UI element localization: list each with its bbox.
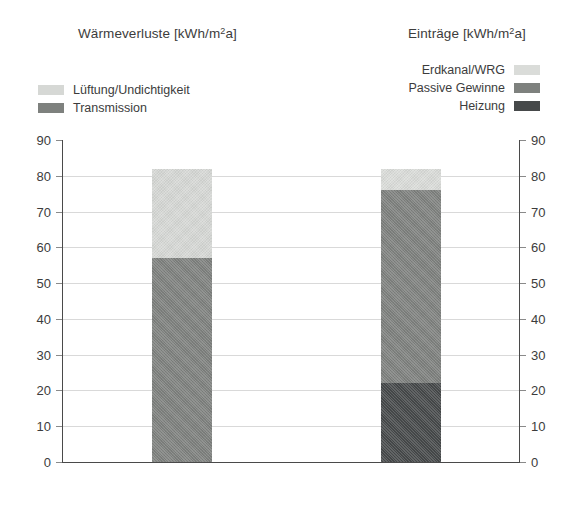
legend-losses: Lüftung/Undichtigkeit Transmission <box>38 82 190 118</box>
panel-title-losses: Wärmeverluste [kWh/m2a] <box>78 26 237 41</box>
y-axis-label-right-10: 10 <box>531 419 565 434</box>
tick-left-70 <box>56 212 62 213</box>
y-axis-label-left-20: 20 <box>17 383 51 398</box>
tick-left-90 <box>56 140 62 141</box>
gridline-50 <box>63 283 519 284</box>
y-axis-label-right-80: 80 <box>531 169 565 184</box>
legend-swatch-erdkanal <box>514 65 540 75</box>
gridline-10 <box>63 426 519 427</box>
legend-item-erdkanal: Erdkanal/WRG <box>408 62 540 78</box>
tick-right-70 <box>520 212 526 213</box>
tick-left-80 <box>56 176 62 177</box>
legend-item-heating: Heizung <box>408 98 540 114</box>
y-axis-label-right-70: 70 <box>531 205 565 220</box>
bar-segment-erdkanal-wrg[interactable] <box>381 169 441 190</box>
y-axis-label-left-50: 50 <box>17 276 51 291</box>
panel-title-gains-text: Einträge [kWh/m <box>408 26 509 41</box>
y-axis-label-left-90: 90 <box>17 133 51 148</box>
bar-segment-heizung[interactable] <box>381 383 441 462</box>
legend-swatch-transmission <box>38 103 64 113</box>
y-axis-label-left-40: 40 <box>17 312 51 327</box>
y-axis-label-right-40: 40 <box>531 312 565 327</box>
legend-item-passive-gains: Passive Gewinne <box>408 80 540 96</box>
tick-right-80 <box>520 176 526 177</box>
bar-waermeverluste[interactable] <box>152 169 212 462</box>
legend-item-transmission: Transmission <box>38 100 190 116</box>
y-axis-label-right-90: 90 <box>531 133 565 148</box>
y-axis-label-right-30: 30 <box>531 348 565 363</box>
y-axis-label-right-50: 50 <box>531 276 565 291</box>
panel-title-losses-text: Wärmeverluste [kWh/m <box>78 26 220 41</box>
tick-left-30 <box>56 355 62 356</box>
gridline-20 <box>63 390 519 391</box>
tick-right-20 <box>520 390 526 391</box>
legend-label-passive-gains: Passive Gewinne <box>408 81 505 95</box>
gridline-60 <box>63 247 519 248</box>
legend-label-erdkanal: Erdkanal/WRG <box>422 63 505 77</box>
gridline-70 <box>63 212 519 213</box>
legend-gains: Erdkanal/WRG Passive Gewinne Heizung <box>408 62 540 116</box>
panel-title-gains: Einträge [kWh/m2a] <box>408 26 526 41</box>
tick-left-10 <box>56 426 62 427</box>
y-axis-label-right-60: 60 <box>531 240 565 255</box>
gridline-30 <box>63 355 519 356</box>
y-axis-label-left-10: 10 <box>17 419 51 434</box>
legend-swatch-heating <box>514 101 540 111</box>
gridline-80 <box>63 176 519 177</box>
tick-left-40 <box>56 319 62 320</box>
tick-left-0 <box>56 462 62 463</box>
tick-right-30 <box>520 355 526 356</box>
gridline-40 <box>63 319 519 320</box>
tick-left-50 <box>56 283 62 284</box>
y-axis-label-left-30: 30 <box>17 348 51 363</box>
y-axis-label-left-70: 70 <box>17 205 51 220</box>
y-axis-label-right-20: 20 <box>531 383 565 398</box>
legend-swatch-passive-gains <box>514 83 540 93</box>
legend-item-ventilation: Lüftung/Undichtigkeit <box>38 82 190 98</box>
tick-left-60 <box>56 247 62 248</box>
bar-segment-passive-gewinne[interactable] <box>381 190 441 383</box>
bar-segment-transmission[interactable] <box>152 258 212 462</box>
tick-right-50 <box>520 283 526 284</box>
y-axis-label-left-0: 0 <box>17 455 51 470</box>
legend-label-heating: Heizung <box>459 99 505 113</box>
plot-area: 9080706050403020100 9080706050403020100 <box>62 140 520 463</box>
tick-left-20 <box>56 390 62 391</box>
y-axis-label-left-60: 60 <box>17 240 51 255</box>
legend-swatch-ventilation <box>38 85 64 95</box>
tick-right-40 <box>520 319 526 320</box>
panel-title-losses-tail: a] <box>225 26 236 41</box>
panel-title-gains-tail: a] <box>514 26 525 41</box>
legend-label-ventilation: Lüftung/Undichtigkeit <box>73 83 190 97</box>
tick-right-10 <box>520 426 526 427</box>
tick-right-90 <box>520 140 526 141</box>
bar-eintraege[interactable] <box>381 169 441 462</box>
y-axis-label-left-80: 80 <box>17 169 51 184</box>
tick-right-0 <box>520 462 526 463</box>
legend-label-transmission: Transmission <box>73 101 147 115</box>
y-axis-label-right-0: 0 <box>531 455 565 470</box>
tick-right-60 <box>520 247 526 248</box>
bar-segment-l-ftung-undichtigkeit[interactable] <box>152 169 212 258</box>
